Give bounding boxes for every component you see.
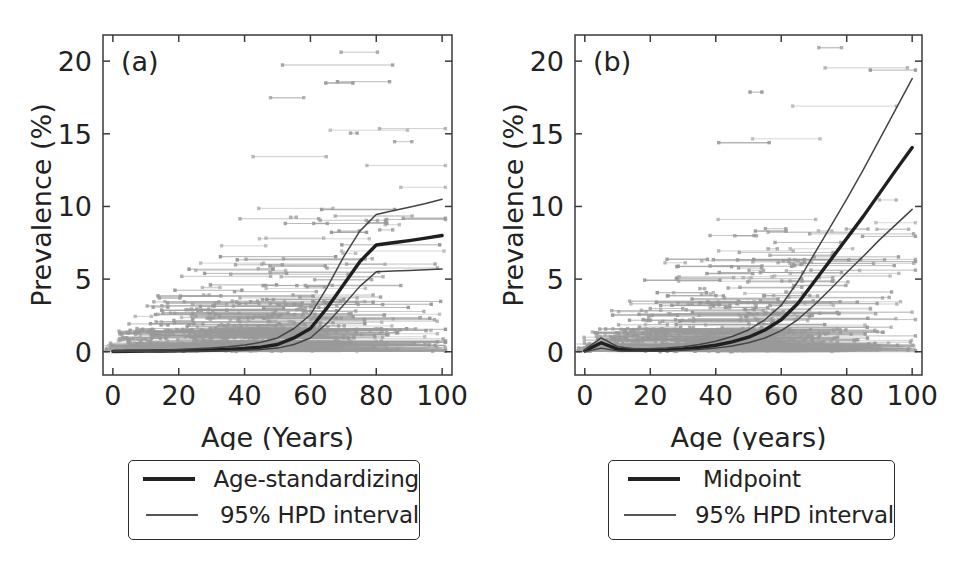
data-endpoint-marker bbox=[444, 340, 447, 343]
data-endpoint-marker bbox=[134, 333, 137, 336]
observed-data-layer bbox=[576, 46, 917, 353]
legend-entry-hpd: 95% HPD interval bbox=[609, 497, 894, 533]
data-endpoint-marker bbox=[914, 68, 917, 71]
x-tick-label: 60 bbox=[293, 380, 327, 411]
data-endpoint-marker bbox=[875, 228, 878, 231]
data-endpoint-marker bbox=[335, 339, 338, 342]
data-endpoint-marker bbox=[743, 292, 746, 295]
data-endpoint-marker bbox=[882, 331, 885, 334]
data-endpoint-marker bbox=[708, 306, 711, 309]
data-endpoint-marker bbox=[189, 329, 192, 332]
data-endpoint-marker bbox=[754, 229, 757, 232]
data-endpoint-marker bbox=[433, 262, 436, 265]
data-endpoint-marker bbox=[365, 231, 368, 234]
data-endpoint-marker bbox=[148, 329, 151, 332]
panel-a-plot: 02040608010005101520(a)Age (Years)Preval… bbox=[0, 0, 483, 450]
data-endpoint-marker bbox=[183, 331, 186, 334]
data-endpoint-marker bbox=[159, 323, 162, 326]
data-endpoint-marker bbox=[351, 315, 354, 318]
data-endpoint-marker bbox=[391, 228, 394, 231]
data-endpoint-marker bbox=[340, 243, 343, 246]
data-endpoint-marker bbox=[785, 269, 788, 272]
data-endpoint-marker bbox=[845, 227, 848, 230]
x-tick-label: 40 bbox=[699, 380, 733, 411]
data-endpoint-marker bbox=[726, 286, 729, 289]
data-endpoint-marker bbox=[229, 273, 232, 276]
data-endpoint-marker bbox=[355, 296, 358, 299]
data-endpoint-marker bbox=[684, 261, 687, 264]
data-endpoint-marker bbox=[251, 155, 254, 158]
data-endpoint-marker bbox=[240, 339, 243, 342]
data-endpoint-marker bbox=[329, 129, 332, 132]
data-endpoint-marker bbox=[675, 277, 678, 280]
data-endpoint-marker bbox=[338, 328, 341, 331]
data-endpoint-marker bbox=[670, 304, 673, 307]
data-endpoint-marker bbox=[672, 291, 675, 294]
data-endpoint-marker bbox=[200, 309, 203, 312]
data-endpoint-marker bbox=[832, 304, 835, 307]
data-endpoint-marker bbox=[717, 249, 720, 252]
data-endpoint-marker bbox=[140, 338, 143, 341]
data-endpoint-marker bbox=[873, 329, 876, 332]
data-endpoint-marker bbox=[269, 96, 272, 99]
data-endpoint-marker bbox=[629, 330, 632, 333]
observed-data-layer bbox=[104, 50, 447, 353]
data-endpoint-marker bbox=[818, 137, 821, 140]
data-endpoint-marker bbox=[647, 333, 650, 336]
data-endpoint-marker bbox=[760, 90, 763, 93]
data-endpoint-marker bbox=[299, 306, 302, 309]
data-endpoint-marker bbox=[800, 262, 803, 265]
data-endpoint-marker bbox=[755, 234, 758, 237]
panel-b-legend: Midpoint 95% HPD interval bbox=[608, 460, 895, 540]
data-endpoint-marker bbox=[717, 141, 720, 144]
data-endpoint-marker bbox=[152, 300, 155, 303]
data-endpoint-marker bbox=[840, 46, 843, 49]
data-endpoint-marker bbox=[363, 319, 366, 322]
data-endpoint-marker bbox=[744, 308, 747, 311]
data-endpoint-marker bbox=[665, 258, 668, 261]
data-endpoint-marker bbox=[760, 264, 763, 267]
data-endpoint-marker bbox=[438, 243, 441, 246]
data-endpoint-marker bbox=[914, 334, 917, 337]
data-endpoint-marker bbox=[779, 337, 782, 340]
data-endpoint-marker bbox=[385, 218, 388, 221]
data-endpoint-marker bbox=[645, 329, 648, 332]
data-endpoint-marker bbox=[733, 234, 736, 237]
data-endpoint-marker bbox=[439, 300, 442, 303]
data-endpoint-marker bbox=[768, 304, 771, 307]
legend-entry-mean: Midpoint bbox=[609, 461, 894, 497]
data-endpoint-marker bbox=[598, 327, 601, 330]
data-endpoint-marker bbox=[258, 237, 261, 240]
data-endpoint-marker bbox=[817, 46, 820, 49]
data-endpoint-marker bbox=[716, 218, 719, 221]
data-endpoint-marker bbox=[418, 316, 421, 319]
x-tick-label: 100 bbox=[416, 380, 468, 411]
data-endpoint-marker bbox=[700, 259, 703, 262]
data-endpoint-marker bbox=[642, 318, 645, 321]
data-endpoint-marker bbox=[355, 300, 358, 303]
data-endpoint-marker bbox=[628, 319, 631, 322]
data-endpoint-marker bbox=[209, 283, 212, 286]
legend-label-mean: Age-standardizing bbox=[214, 466, 419, 492]
data-endpoint-marker bbox=[647, 318, 650, 321]
data-endpoint-marker bbox=[236, 340, 239, 343]
data-endpoint-marker bbox=[218, 315, 221, 318]
data-endpoint-marker bbox=[910, 339, 913, 342]
data-endpoint-marker bbox=[234, 263, 237, 266]
data-endpoint-marker bbox=[893, 264, 896, 267]
x-tick-label: 20 bbox=[162, 380, 196, 411]
data-endpoint-marker bbox=[289, 216, 292, 219]
data-endpoint-marker bbox=[311, 294, 314, 297]
data-endpoint-marker bbox=[883, 258, 886, 261]
data-endpoint-marker bbox=[444, 186, 447, 189]
data-endpoint-marker bbox=[380, 321, 383, 324]
data-endpoint-marker bbox=[430, 303, 433, 306]
data-endpoint-marker bbox=[874, 221, 877, 224]
data-endpoint-marker bbox=[878, 198, 881, 201]
legend-label-hpd: 95% HPD interval bbox=[220, 502, 419, 528]
data-endpoint-marker bbox=[154, 313, 157, 316]
data-endpoint-marker bbox=[704, 323, 707, 326]
data-endpoint-marker bbox=[656, 291, 659, 294]
data-endpoint-marker bbox=[644, 310, 647, 313]
data-endpoint-marker bbox=[718, 271, 721, 274]
